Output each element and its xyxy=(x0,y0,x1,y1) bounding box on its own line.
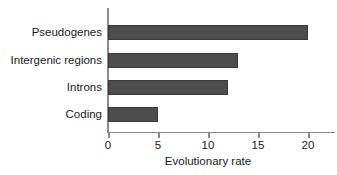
x-axis-title: Evolutionary rate xyxy=(108,154,308,168)
tick-label-10: 10 xyxy=(193,138,223,152)
bar-fill xyxy=(108,25,308,40)
category-label-introns: Introns xyxy=(0,80,102,95)
bar-intergenic-regions xyxy=(108,53,238,68)
bar-fill xyxy=(108,107,158,122)
bar-fill xyxy=(108,80,228,95)
category-label-coding: Coding xyxy=(0,107,102,122)
tick-label-5: 5 xyxy=(143,138,173,152)
bar-chart: PseudogenesIntergenic regionsIntronsCodi… xyxy=(0,0,337,175)
bar-introns xyxy=(108,80,228,95)
bar-coding xyxy=(108,107,158,122)
category-label-intergenic-regions: Intergenic regions xyxy=(0,53,102,68)
bar-pseudogenes xyxy=(108,25,308,40)
plot-area xyxy=(108,8,333,132)
tick-label-15: 15 xyxy=(243,138,273,152)
bar-fill xyxy=(108,53,238,68)
category-label-pseudogenes: Pseudogenes xyxy=(0,25,102,40)
tick-label-20: 20 xyxy=(293,138,323,152)
tick-label-0: 0 xyxy=(93,138,123,152)
